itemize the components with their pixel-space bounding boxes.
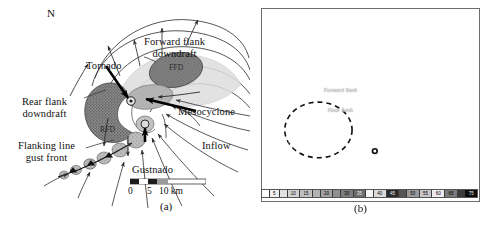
colorbar-cell: 35: [354, 190, 367, 197]
colorbar-cell: [399, 190, 407, 197]
label-flanking-line-gust-front: Flanking line gust front: [18, 140, 75, 163]
gustnado-marker: [141, 120, 149, 128]
figure-root: N Tornado Forward flank downdraft FFD Re…: [0, 0, 482, 227]
colorbar-cell: 50: [407, 190, 420, 197]
label-forward-flank-downdraft: Forward flank downdraft: [144, 36, 205, 59]
colorbar-cell: [366, 190, 374, 197]
colorbar-cell: 5: [270, 190, 280, 197]
caption-panel-b: (b): [354, 202, 367, 214]
label-tornado: Tornado: [86, 60, 122, 72]
colorbar-cell: 15: [300, 190, 313, 197]
label-rfd-abbrev: RFD: [100, 124, 115, 136]
colorbar-cell: 20: [321, 190, 334, 197]
radar-reflectivity-image: Forward flank Rear flank: [261, 8, 480, 202]
scalebar-labels: 0 5 10 km: [128, 186, 183, 196]
label-rear-flank-downdraft: Rear flank downdraft: [22, 96, 67, 119]
colorbar-cell: 55: [420, 190, 433, 197]
colorbar-cell: 10: [288, 190, 301, 197]
scalebar-graphic: [130, 178, 206, 186]
tornado-marker: [127, 97, 135, 105]
colorbar-cell: [458, 190, 466, 197]
colorbar-cell: 40: [374, 190, 387, 197]
colorbar-cell: 60: [432, 190, 445, 197]
compass-label-north: N: [47, 8, 55, 20]
reflectivity-colorbar[interactable]: 5101520303540455055606575: [261, 189, 478, 198]
colorbar-cell: [280, 190, 288, 197]
colorbar-cell: [333, 190, 341, 197]
colorbar-cell: [313, 190, 321, 197]
panel-a-schematic: N Tornado Forward flank downdraft FFD Re…: [0, 0, 250, 227]
colorbar-cell: [262, 190, 270, 197]
radar-annotation-rear-flank: Rear flank: [328, 107, 353, 113]
colorbar-cell: 65: [445, 190, 458, 197]
colorbar-cell: 45: [387, 190, 400, 197]
panel-b-radar: Forward flank Rear flank 510152030354045…: [250, 0, 482, 227]
label-mesocyclone: Mesocyclone: [178, 106, 235, 118]
radar-annotation-forward-flank: Forward flank: [324, 87, 357, 93]
label-gustnado: Gustnado: [132, 164, 173, 176]
radar-canvas: [262, 9, 479, 201]
caption-panel-a: (a): [160, 200, 172, 212]
label-ffd-abbrev: FFD: [169, 62, 183, 74]
colorbar-cell: 30: [341, 190, 354, 197]
label-inflow: Inflow: [202, 140, 231, 152]
colorbar-cell: 75: [465, 190, 477, 197]
